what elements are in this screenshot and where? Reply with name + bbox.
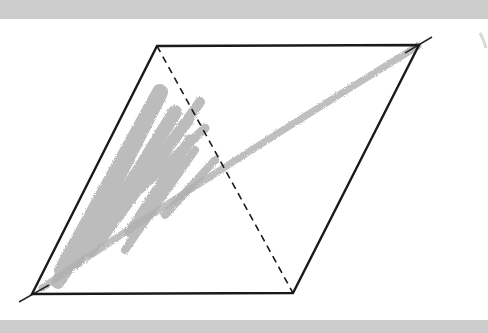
smudge-mark [480, 33, 486, 48]
diagonal-pencil-stroke [42, 46, 418, 288]
parallelogram-diagram [0, 0, 488, 333]
